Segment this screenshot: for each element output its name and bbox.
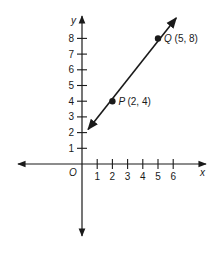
point-label-q: Q (5, 8) <box>164 33 198 44</box>
x-tick-label: 3 <box>125 171 131 182</box>
points: P (2, 4)Q (5, 8) <box>109 33 198 107</box>
y-tick-label: 8 <box>68 33 74 44</box>
y-tick-label: 7 <box>68 49 74 60</box>
point-label-p: P (2, 4) <box>118 96 150 107</box>
y-tick-label: 1 <box>68 143 74 154</box>
y-ticks: 12345678 <box>68 33 87 154</box>
x-tick-label: 6 <box>170 171 176 182</box>
y-tick-label: 4 <box>68 96 74 107</box>
y-tick-label: 2 <box>68 127 74 138</box>
x-tick-label: 5 <box>155 171 161 182</box>
origin-label: O <box>69 167 77 178</box>
y-tick-label: 6 <box>68 64 74 75</box>
coordinate-plot: 123456 12345678 x y O P (2, 4)Q (5, 8) <box>0 0 218 255</box>
x-tick-label: 4 <box>140 171 146 182</box>
x-tick-label: 1 <box>94 171 100 182</box>
y-axis-label: y <box>70 15 77 26</box>
point-p <box>109 98 115 104</box>
y-tick-label: 5 <box>68 80 74 91</box>
x-axis-label: x <box>199 167 206 178</box>
x-ticks: 123456 <box>94 159 176 182</box>
y-tick-label: 3 <box>68 111 74 122</box>
point-q <box>155 35 161 41</box>
x-tick-label: 2 <box>110 171 116 182</box>
